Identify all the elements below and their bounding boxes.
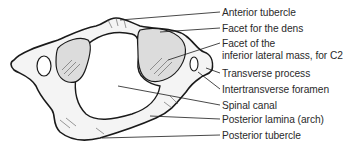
label-facet-inferior-line1: Facet of the [222,38,275,49]
label-facet-inferior-line2: inferior lateral mass, for C2 [222,50,343,61]
label-facet-for-dens: Facet for the dens [222,23,303,34]
label-posterior-tubercle: Posterior tubercle [222,130,301,141]
label-intertransverse-foramen: Intertransverse foramen [222,84,329,95]
label-posterior-lamina: Posterior lamina (arch) [222,114,324,125]
label-spinal-canal: Spinal canal [222,100,277,111]
left-intertransverse-foramen [37,56,51,76]
label-anterior-tubercle: Anterior tubercle [222,7,296,18]
label-transverse-process: Transverse process [222,68,310,79]
right-intertransverse-foramen [190,57,198,71]
